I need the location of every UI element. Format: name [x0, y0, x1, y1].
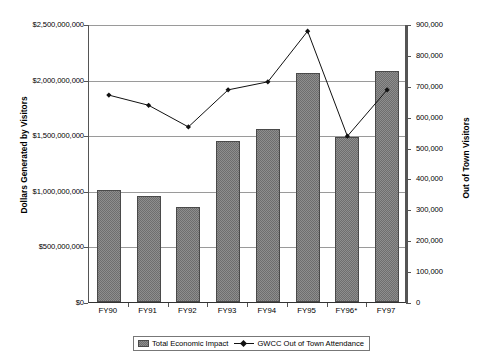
left-tick-label: $0 [0, 299, 84, 307]
legend-item-line: GWCC Out of Town Attendance [234, 339, 364, 348]
left-tick-label: $2,500,000,000 [0, 21, 84, 29]
legend-label-line: GWCC Out of Town Attendance [257, 339, 364, 348]
right-tick-label: 500,000 [416, 145, 476, 153]
right-tick-label: 0 [416, 299, 476, 307]
line-marker-icon [234, 340, 254, 347]
x-tick-mark [207, 303, 208, 307]
line-marker [146, 103, 151, 108]
left-tick-mark [84, 303, 88, 304]
line-marker [106, 93, 111, 98]
line-series [89, 25, 407, 303]
right-tick-label: 700,000 [416, 83, 476, 91]
right-tick-label: 800,000 [416, 52, 476, 60]
left-tick-label: $500,000,000 [0, 243, 84, 251]
bar-swatch-icon [138, 340, 149, 347]
x-tick-mark [168, 303, 169, 307]
chart-container: Dollars Generated by Visitors Out of Tow… [0, 0, 477, 361]
right-tick-label: 100,000 [416, 268, 476, 276]
x-tick-label: FY97 [356, 306, 416, 315]
x-tick-mark [366, 303, 367, 307]
left-tick-label: $1,500,000,000 [0, 132, 84, 140]
line-path [109, 31, 387, 136]
right-tick-label: 900,000 [416, 21, 476, 29]
x-tick-mark [247, 303, 248, 307]
right-tick-label: 600,000 [416, 114, 476, 122]
x-tick-mark [287, 303, 288, 307]
left-axis-title: Dollars Generated by Visitors [19, 85, 29, 225]
right-tick-label: 200,000 [416, 237, 476, 245]
left-tick-label: $2,000,000,000 [0, 77, 84, 85]
x-tick-mark [327, 303, 328, 307]
x-tick-mark [128, 303, 129, 307]
right-tick-label: 400,000 [416, 175, 476, 183]
right-tick-label: 300,000 [416, 206, 476, 214]
chart-legend: Total Economic Impact GWCC Out of Town A… [133, 336, 370, 351]
legend-label-bar: Total Economic Impact [152, 339, 228, 348]
right-tick-mark [406, 303, 411, 304]
legend-item-bar: Total Economic Impact [138, 339, 228, 348]
left-tick-label: $1,000,000,000 [0, 188, 84, 196]
plot-area [88, 25, 406, 303]
